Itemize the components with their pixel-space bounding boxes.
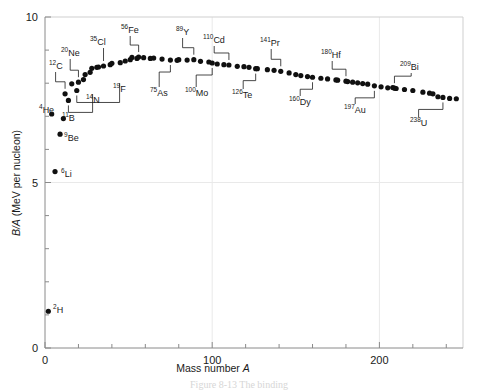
nuclide-label-110Cd: 110Cd — [203, 33, 225, 45]
data-point — [447, 96, 452, 101]
data-point — [159, 56, 164, 61]
data-point — [69, 81, 74, 86]
data-point — [89, 66, 94, 71]
data-point — [430, 91, 435, 96]
data-point — [365, 82, 370, 87]
leader-line — [56, 72, 65, 89]
x-tick-label: 0 — [42, 354, 48, 366]
leader-line — [332, 61, 346, 76]
data-point — [57, 132, 62, 137]
nuclide-label-9Be: 9Be — [64, 131, 79, 143]
svg-text:B/A (MeV per nucleon): B/A (MeV per nucleon) — [10, 130, 22, 236]
y-tick-label: 0 — [32, 342, 38, 354]
data-point — [176, 57, 181, 62]
x-axis-label: Mass number A — [176, 362, 250, 374]
data-point — [129, 55, 134, 60]
data-point — [420, 90, 425, 95]
data-point — [287, 70, 292, 75]
nuclide-label-89Y: 89Y — [176, 25, 189, 37]
data-point — [76, 80, 81, 85]
data-point — [118, 60, 123, 65]
data-point — [62, 91, 67, 96]
y-tick-label: 10 — [26, 11, 38, 23]
data-point — [360, 81, 365, 86]
nuclide-label-20Ne: 20Ne — [61, 46, 80, 58]
data-point — [52, 169, 57, 174]
leader-line — [271, 49, 281, 66]
y-tick-label: 5 — [32, 177, 38, 189]
data-point — [293, 72, 298, 77]
data-point — [221, 62, 226, 67]
data-point — [185, 57, 190, 62]
data-point — [378, 84, 383, 89]
data-point — [385, 85, 390, 90]
nuclide-label-141Pr: 141Pr — [260, 36, 280, 48]
data-point — [305, 74, 310, 79]
data-point — [198, 59, 203, 64]
leader-line — [214, 46, 229, 60]
leader-line — [183, 38, 194, 55]
data-point — [96, 64, 101, 69]
leader-line — [394, 73, 411, 83]
data-point — [318, 76, 323, 81]
axis-tick-labels: 01002000510 — [26, 11, 389, 366]
leader-line — [419, 102, 443, 117]
data-point — [350, 80, 355, 85]
leader-line — [130, 36, 138, 52]
nuclide-label-11B: 11B — [62, 111, 75, 123]
nuclide-label-6Li: 6Li — [61, 167, 72, 179]
data-point — [136, 54, 141, 59]
data-point — [440, 95, 445, 100]
nuclide-label-180Hf: 180Hf — [321, 48, 341, 60]
data-point — [215, 61, 220, 66]
data-point — [191, 57, 196, 62]
nuclide-label-126Te: 126Te — [232, 88, 252, 100]
data-point — [335, 78, 340, 83]
data-point — [83, 72, 88, 77]
data-point — [81, 77, 86, 82]
binding-energy-chart: 01002000510 2H4He6Li9Be11B12C14N19F20Ne3… — [0, 0, 478, 390]
data-point — [310, 75, 315, 80]
data-point — [255, 66, 260, 71]
leader-line — [355, 91, 374, 104]
data-point — [265, 67, 270, 72]
nuclide-label-35Cl: 35Cl — [90, 35, 106, 47]
data-point — [325, 76, 330, 81]
data-point — [109, 61, 114, 66]
nuclide-label-209Bi: 209Bi — [400, 60, 419, 72]
data-point — [241, 64, 246, 69]
nuclide-label-197Au: 197Au — [344, 103, 366, 115]
leader-line — [159, 65, 170, 87]
data-point — [454, 96, 459, 101]
annotation-leader-lines — [56, 36, 443, 117]
leader-line — [243, 74, 255, 89]
data-point — [246, 65, 251, 70]
data-point — [394, 86, 399, 91]
leader-line — [70, 59, 78, 77]
figure-caption: Figure 8-13 The binding — [190, 379, 288, 390]
nuclide-label-160Dy: 160Dy — [289, 95, 311, 107]
leader-line — [196, 68, 212, 87]
nuclide-label-19F: 19F — [113, 82, 126, 94]
x-tick-label: 200 — [370, 354, 388, 366]
nuclide-label-56Fe: 56Fe — [121, 23, 139, 35]
data-point — [46, 309, 51, 314]
data-point — [355, 80, 360, 85]
data-point — [345, 79, 350, 84]
data-point — [402, 87, 407, 92]
nuclide-label-12C: 12C — [49, 59, 63, 71]
data-point — [278, 69, 283, 74]
nuclide-label-75As: 75As — [150, 86, 168, 98]
y-axis-label: B/A (MeV per nucleon) — [10, 130, 22, 236]
data-point — [168, 57, 173, 62]
data-point — [74, 88, 79, 93]
data-point — [298, 73, 303, 78]
nuclide-label-100Mo: 100Mo — [185, 86, 208, 98]
data-point — [226, 62, 231, 67]
data-point — [235, 64, 240, 69]
nuclide-label-4He: 4He — [39, 103, 54, 115]
data-point — [435, 94, 440, 99]
data-point — [66, 98, 71, 103]
data-point — [123, 58, 128, 63]
data-point — [372, 83, 377, 88]
